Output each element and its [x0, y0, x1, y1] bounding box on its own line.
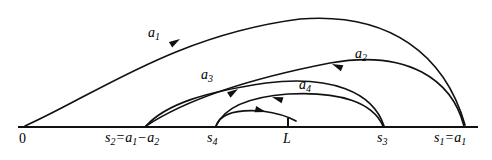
axis-label-s3-sub: 3 [382, 136, 387, 147]
axis-label-s1: s1=a1 [434, 131, 466, 145]
diagram-canvas [0, 0, 492, 160]
arc-a3 [146, 81, 384, 126]
axis-label-s2-eq: = [115, 130, 125, 145]
arc-label-a1: a1 [148, 26, 160, 40]
arc-label-a3: a3 [201, 68, 213, 82]
arc-label-a2: a2 [355, 47, 367, 61]
arc-label-a3-base: a [201, 67, 208, 82]
arc-label-a2-sub: 2 [362, 52, 367, 63]
arrowhead-a1 [169, 36, 182, 47]
arc-label-a2-base: a [355, 46, 362, 61]
axis-label-s1-a1-sub: 1 [461, 136, 466, 147]
arc-label-a1-sub: 1 [155, 31, 160, 42]
arc-a1 [25, 18, 465, 126]
axis-label-s2-a2-sub: 2 [154, 136, 159, 147]
axis-label-s2-a1-sub: 1 [132, 136, 137, 147]
arc-label-a4: a4 [299, 78, 311, 92]
axis-label-s1-sub: 1 [439, 136, 444, 147]
axis-label-s2: s2=a1−a2 [105, 131, 159, 145]
axis-label-s4-sub: 4 [212, 136, 217, 147]
axis-label-s4: s4 [207, 131, 217, 145]
axis-label-s1-eq: = [444, 130, 454, 145]
arc-label-a3-sub: 3 [208, 73, 213, 84]
axis-label-s2-minus: − [137, 130, 147, 145]
arc-label-a4-sub: 4 [306, 83, 311, 94]
arc-label-a1-base: a [148, 25, 155, 40]
axis-label-zero: 0 [19, 132, 26, 146]
arc-label-a4-base: a [299, 77, 306, 92]
arc-a4 [216, 94, 383, 126]
axis-label-s3: s3 [377, 131, 387, 145]
arc-innermost [216, 111, 296, 126]
math-figure: a1 a2 a3 a4 0 s2=a1−a2 s4 L s3 s1=a1 [0, 0, 492, 160]
axis-label-s2-sub: 2 [110, 136, 115, 147]
axis-label-L: L [283, 132, 291, 146]
